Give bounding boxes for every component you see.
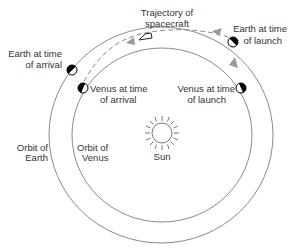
- venus-transfer-diagram: Trajectory of spacecraft Earth at time o…: [0, 0, 296, 251]
- venus-arrival-label-line2: of arrival: [100, 94, 136, 105]
- earth-at-arrival-planet-icon: [67, 65, 77, 75]
- earth-arrival-label: Earth at time: [8, 48, 62, 59]
- trajectory-label: Trajectory of: [141, 7, 194, 18]
- venus-launch-label: Venus at time: [177, 83, 235, 94]
- earth-launch-label: Earth at time: [233, 23, 287, 34]
- earth-at-launch-planet-icon: [228, 37, 238, 47]
- trajectory-arrow-icon: [126, 37, 135, 45]
- earth-arrival-label-line2: of arrival: [26, 59, 62, 70]
- orbit-venus-label-line2: Venus: [82, 152, 109, 163]
- orbit-earth-label-line2: Earth: [25, 152, 48, 163]
- sun-icon: [145, 116, 179, 150]
- venus-at-arrival-planet-icon: [78, 83, 88, 93]
- earth-launch-label-line2: of launch: [243, 35, 282, 46]
- spacecraft-trajectory: [82, 30, 236, 85]
- venus-arrival-label: Venus at time: [90, 83, 148, 94]
- venus-at-launch-planet-icon: [236, 83, 246, 93]
- venus-launch-label-line2: of launch: [187, 94, 226, 105]
- trajectory-label-line2: spacecraft: [145, 18, 189, 29]
- sun-label: Sun: [154, 151, 171, 162]
- venus-orbit-arrow-icon: [229, 57, 238, 68]
